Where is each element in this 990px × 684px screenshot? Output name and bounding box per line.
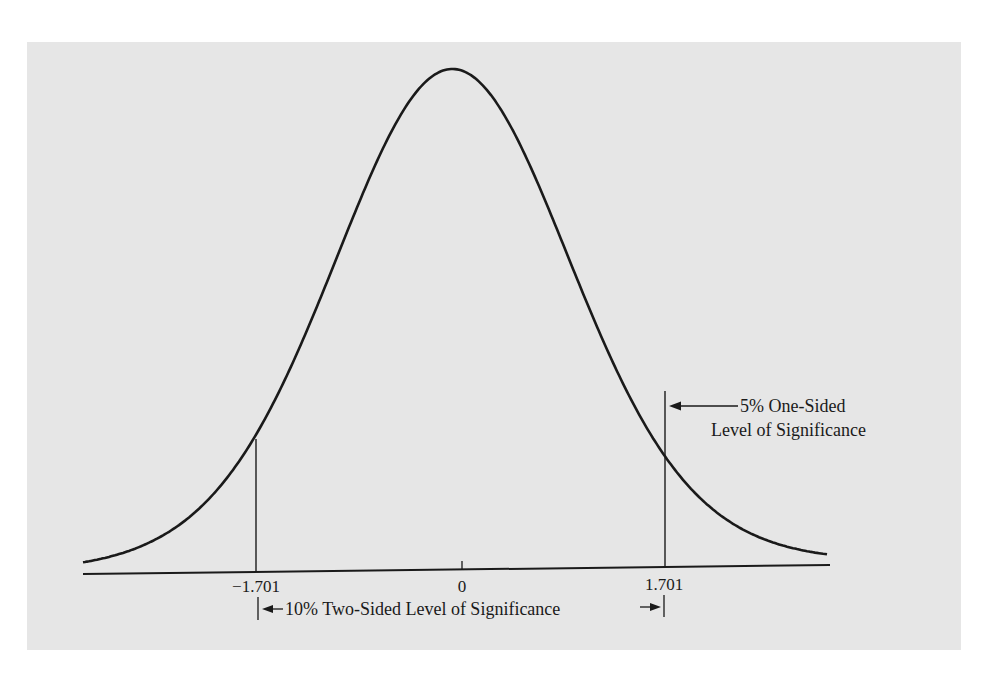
two-sided-label: 10% Two-Sided Level of Significance xyxy=(285,599,560,619)
tick-label-neg: −1.701 xyxy=(232,577,280,596)
arrow-right-icon xyxy=(650,603,661,611)
tick-label-zero: 0 xyxy=(458,577,467,596)
one-sided-label-line2: Level of Significance xyxy=(711,420,866,440)
arrow-left-icon xyxy=(669,402,681,411)
tick-label-pos: 1.701 xyxy=(645,575,683,594)
density-curve xyxy=(83,69,827,562)
t-distribution-chart: −1.701 0 1.701 5% One-Sided Level of Sig… xyxy=(0,0,990,684)
x-axis xyxy=(83,565,830,574)
one-sided-label-line1: 5% One-Sided xyxy=(740,396,845,416)
